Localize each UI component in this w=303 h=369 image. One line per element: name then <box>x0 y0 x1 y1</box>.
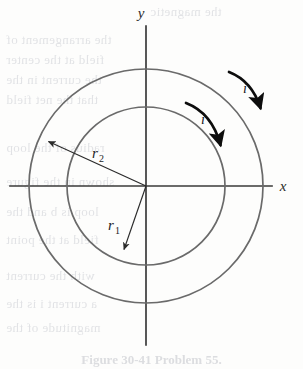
r1-radius-arrow <box>124 186 146 250</box>
r1-radius-label: r 1 <box>108 217 120 236</box>
svg-text:r: r <box>92 145 98 161</box>
r2-radius-label: r 2 <box>92 145 104 164</box>
y-axis-label: y <box>136 5 145 21</box>
x-axis-label: x <box>279 178 287 194</box>
inner-current-label: i <box>201 112 205 127</box>
figure-container: the magnetic the arrangement of field at… <box>0 0 303 369</box>
outer-current-label: i <box>243 81 247 96</box>
svg-text:2: 2 <box>99 153 104 164</box>
concentric-loops-diagram: y x r 2 r 1 i i <box>0 0 303 369</box>
svg-text:1: 1 <box>115 225 120 236</box>
svg-text:r: r <box>108 217 114 233</box>
